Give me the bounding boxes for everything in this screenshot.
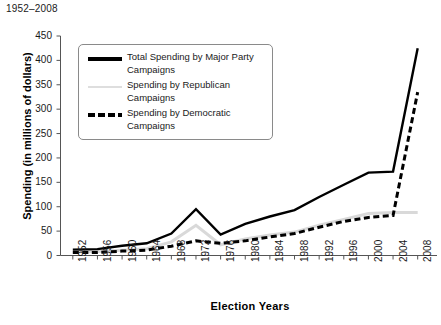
legend-swatch-republican-icon — [88, 86, 122, 88]
legend-entry-democratic[interactable]: Spending by Democratic Campaigns — [88, 108, 270, 134]
legend-label-democratic: Spending by Democratic Campaigns — [127, 107, 273, 132]
x-tick-label: 1956 — [102, 239, 113, 261]
x-tick-label: 1964 — [151, 239, 162, 261]
legend-entry-republican[interactable]: Spending by Republican Campaigns — [88, 80, 270, 106]
x-axis-title: Election Years — [60, 300, 440, 312]
legend-entry-total[interactable]: Total Spending by Major Party Campaigns — [88, 52, 270, 78]
x-tick-label: 1960 — [127, 239, 138, 261]
x-tick-label: 1980 — [250, 239, 261, 261]
legend-label-total: Total Spending by Major Party Campaigns — [127, 51, 273, 76]
legend-swatch-democratic-icon — [88, 113, 122, 117]
x-tick-label: 2008 — [422, 239, 433, 261]
legend-label-republican: Spending by Republican Campaigns — [127, 79, 273, 104]
x-tick-label: 1976 — [225, 239, 236, 261]
x-tick-label: 2000 — [373, 239, 384, 261]
chart-figure: 1952–2008 Spending (in millions of dolla… — [0, 0, 441, 325]
x-tick-label: 1972 — [200, 239, 211, 261]
x-tick-label: 1984 — [274, 239, 285, 261]
x-tick-label: 1968 — [176, 239, 187, 261]
x-tick-label: 1992 — [324, 239, 335, 261]
x-tick-label: 1988 — [299, 239, 310, 261]
x-tick-label: 2004 — [398, 239, 409, 261]
x-tick-label: 1952 — [77, 239, 88, 261]
chart-legend: Total Spending by Major Party Campaigns … — [78, 44, 273, 140]
x-tick-label: 1996 — [348, 239, 359, 261]
legend-swatch-total-icon — [88, 57, 122, 61]
